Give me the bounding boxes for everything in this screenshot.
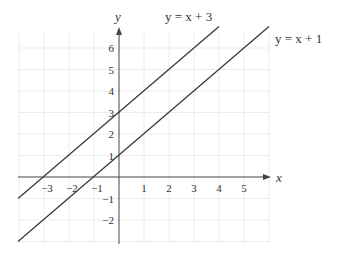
grid xyxy=(18,33,270,243)
x-tick-label: 1 xyxy=(141,182,147,194)
linear-functions-chart: x y −3−2−112345654321−1−2 y = x + 3 y = … xyxy=(0,0,339,256)
x-tick-label: 2 xyxy=(166,182,172,194)
y-tick-label: 4 xyxy=(109,85,115,97)
x-axis-arrow-icon xyxy=(263,174,271,180)
y-tick-label: 2 xyxy=(109,128,115,140)
y-tick-label: 5 xyxy=(109,64,115,76)
x-tick-label: 5 xyxy=(241,182,247,194)
equation-label-y-x-plus-1: y = x + 1 xyxy=(275,31,322,46)
y-tick-label: −1 xyxy=(102,193,114,205)
x-tick-label: −1 xyxy=(91,182,103,194)
y-tick-label: 6 xyxy=(109,42,115,54)
y-axis-arrow-icon xyxy=(116,27,122,35)
x-axis-label: x xyxy=(275,170,282,185)
x-tick-label: −3 xyxy=(41,182,53,194)
x-tick-label: 4 xyxy=(216,182,222,194)
equation-label-y-x-plus-3: y = x + 3 xyxy=(165,9,212,24)
x-tick-label: 3 xyxy=(191,182,197,194)
axes: x y xyxy=(18,9,282,244)
y-tick-label: −2 xyxy=(102,214,114,226)
y-axis-label: y xyxy=(113,9,121,24)
